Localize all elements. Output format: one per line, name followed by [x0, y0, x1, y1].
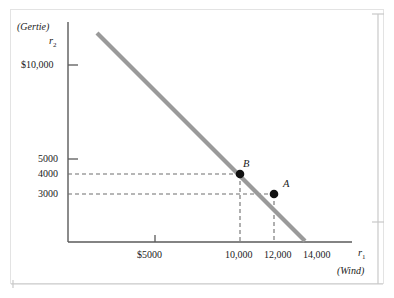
figure-border [11, 10, 385, 289]
y-axis-ticks [68, 65, 78, 159]
y-axis-name: r2 [49, 36, 57, 49]
budget-line [97, 33, 305, 241]
point-a-marker [270, 190, 279, 199]
y-axis-subscript: 2 [53, 41, 57, 49]
guide-lines [68, 174, 274, 242]
x-tick-label-14000: 14,000 [303, 250, 331, 260]
x-tick-label-10000: 10,000 [225, 250, 253, 260]
chart-canvas [0, 0, 394, 298]
x-axis-agent-label: (Wind) [337, 266, 364, 276]
y-axis-agent-label: (Gertie) [17, 22, 49, 32]
x-tick-label-12000: 12,000 [264, 250, 292, 260]
x-axis-subscript: 1 [362, 253, 366, 261]
economics-budget-line-figure: (Gertie) r2 $10,000 5000 4000 3000 $5000… [0, 0, 394, 298]
y-tick-label-5000: 5000 [38, 154, 58, 164]
x-tick-label-5000: $5000 [137, 250, 162, 260]
point-a-label: A [283, 179, 289, 190]
point-b-marker [236, 170, 245, 179]
y-tick-label-3000: 3000 [38, 189, 58, 199]
point-b-label: B [243, 159, 249, 170]
y-tick-label-4000: 4000 [38, 169, 58, 179]
x-axis-name: r1 [358, 248, 366, 261]
y-tick-label-10000: $10,000 [21, 60, 54, 70]
axis-lines [68, 22, 352, 242]
